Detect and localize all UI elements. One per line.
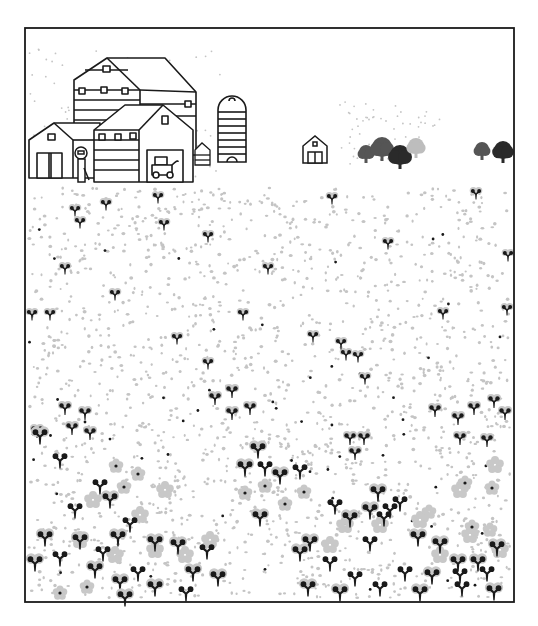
- sprout-icon: [26, 553, 44, 571]
- sprout-icon: [411, 583, 429, 601]
- sprout-icon: [299, 578, 317, 596]
- sprout-icon: [258, 461, 273, 476]
- sprout-icon: [26, 308, 39, 321]
- flower-icon: [117, 480, 132, 494]
- sprout-icon: [335, 337, 348, 350]
- flower-icon: [131, 467, 146, 481]
- sprout-icon: [480, 566, 495, 581]
- sprout-icon: [225, 406, 239, 420]
- sprout-icon: [428, 403, 442, 417]
- sprout-icon: [209, 568, 227, 586]
- tree-line: [358, 137, 514, 169]
- sprout-icon: [323, 556, 338, 571]
- sprout-icon: [453, 431, 467, 445]
- sprout-icon: [101, 490, 119, 508]
- sprout-icon: [487, 394, 501, 408]
- sprout-icon: [78, 406, 92, 420]
- sprout-icon: [86, 560, 104, 578]
- sprout-icon: [437, 307, 450, 320]
- distant-barn: [303, 136, 327, 163]
- sprout-icon: [326, 192, 339, 205]
- sprout-icon: [152, 191, 165, 204]
- sprout-icon: [455, 581, 470, 596]
- sprout-icon: [71, 531, 89, 549]
- sprout-icon: [307, 330, 320, 343]
- flower-icon: [297, 485, 312, 499]
- flower-icon: [109, 459, 124, 473]
- sprout-icon: [369, 483, 387, 501]
- sprout-icon: [357, 431, 371, 445]
- sprout-icon: [382, 237, 395, 250]
- sprout-icon: [453, 568, 468, 583]
- sprout-icon: [236, 458, 254, 476]
- sprout-icon: [59, 262, 72, 275]
- flower-icon: [238, 486, 253, 500]
- sprout-icon: [498, 406, 512, 420]
- flower-icon: [278, 497, 293, 511]
- sprout-icon: [202, 230, 215, 243]
- sprout-icon: [409, 528, 427, 546]
- sprout-icon: [343, 431, 357, 445]
- flower-icon: [53, 586, 68, 600]
- sprout-icon: [467, 401, 481, 415]
- sprout-icon: [249, 440, 267, 458]
- sprout-icon: [271, 466, 289, 484]
- sprout-icon: [340, 348, 353, 361]
- sprout-icon: [184, 563, 202, 581]
- sprout-icon: [44, 308, 57, 321]
- flower-icon: [80, 580, 95, 594]
- sprout-icon: [361, 501, 379, 519]
- sprout-icon: [58, 401, 72, 415]
- sprout-icon: [373, 581, 388, 596]
- sprout-icon: [146, 578, 164, 596]
- flower-icon: [422, 505, 437, 519]
- farm-illustration: [0, 0, 538, 626]
- sprout-icon: [363, 536, 378, 551]
- sprout-icon: [65, 421, 79, 435]
- sprout-icon: [83, 426, 97, 440]
- sprout-icon: [202, 357, 215, 370]
- sprout-icon: [53, 551, 68, 566]
- sprout-icon: [116, 588, 134, 606]
- sprout-icon: [237, 308, 250, 321]
- sprout-icon: [502, 249, 515, 262]
- sprout-icon: [131, 566, 146, 581]
- sprout-icon: [293, 464, 308, 479]
- sprout-icon: [291, 543, 309, 561]
- sprout-icon: [352, 350, 365, 363]
- sprout-icon: [69, 204, 82, 217]
- left-barn: [29, 123, 100, 178]
- sprout-icon: [208, 391, 222, 405]
- sprout-icon: [109, 288, 122, 301]
- sprout-icon: [501, 303, 514, 316]
- sprout-icon: [348, 446, 362, 460]
- sprout-icon: [74, 216, 87, 229]
- sprout-icon: [53, 453, 68, 468]
- sprout-icon: [225, 384, 239, 398]
- flower-icon: [458, 476, 473, 490]
- sprout-icon: [451, 411, 465, 425]
- flower-icon: [465, 520, 480, 534]
- sprout-icon: [480, 433, 494, 447]
- sprout-icon: [100, 198, 113, 211]
- sprout-icon: [398, 566, 413, 581]
- flower-icon: [485, 481, 500, 495]
- sprout-icon: [331, 583, 349, 601]
- silo: [218, 96, 246, 162]
- sprout-icon: [243, 401, 257, 415]
- sprout-icon: [359, 372, 372, 385]
- sprout-icon: [109, 528, 127, 546]
- sprout-icon: [171, 332, 184, 345]
